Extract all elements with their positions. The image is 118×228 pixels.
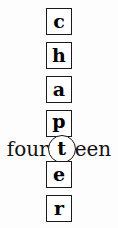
boxed-letter-4-glyph: p	[52, 112, 65, 131]
circled-letter-glyph: t	[57, 139, 66, 158]
number-word-prefix: four	[7, 139, 49, 159]
number-word-row: four t een	[0, 133, 118, 164]
boxed-letter-2: h	[46, 42, 72, 69]
boxed-letter-2-glyph: h	[52, 46, 66, 65]
boxed-letter-1: c	[46, 8, 72, 35]
boxed-letter-3: a	[46, 76, 72, 103]
boxed-letter-7: r	[46, 195, 72, 222]
boxed-letter-7-glyph: r	[54, 199, 64, 218]
boxed-letter-1-glyph: c	[53, 12, 65, 31]
boxed-letter-6: e	[46, 161, 72, 188]
boxed-letter-3-glyph: a	[53, 80, 65, 99]
circled-letter: t	[48, 135, 76, 163]
number-word-suffix: een	[75, 139, 112, 159]
chapter-heading-figure: c h a p four t een e r	[0, 0, 118, 228]
boxed-letter-6-glyph: e	[53, 165, 65, 184]
